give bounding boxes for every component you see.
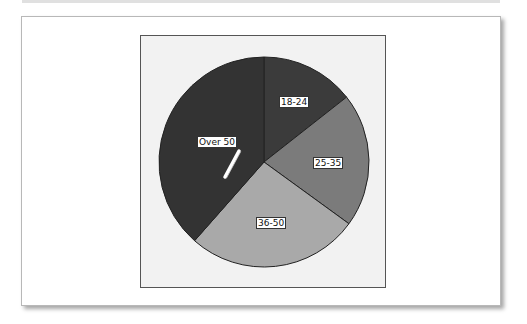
slice-label-25-35: 25-35 — [313, 157, 343, 169]
slice-label-18-24: 18-24 — [279, 96, 309, 108]
slice-label-over-50: Over 50 — [197, 136, 237, 148]
pie-chart — [0, 0, 527, 324]
slice-label-36-50: 36-50 — [256, 217, 286, 229]
